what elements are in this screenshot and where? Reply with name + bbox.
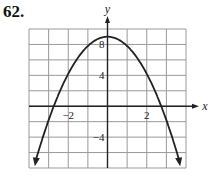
parabola-chart: xy−2284−4 (0, 0, 208, 176)
y-tick-label: −4 (93, 131, 105, 143)
y-tick-label: 8 (99, 38, 105, 50)
x-axis-arrow-icon (192, 104, 199, 109)
x-tick-label: −2 (62, 109, 74, 121)
y-axis-label: y (104, 2, 111, 16)
curve-arrow-left-icon (33, 157, 40, 166)
curve-arrow-right-icon (175, 157, 182, 166)
x-tick-label: 2 (144, 109, 150, 121)
y-axis-arrow-icon (105, 16, 110, 23)
y-tick-label: 4 (99, 69, 105, 81)
x-axis-label: x (201, 99, 208, 113)
